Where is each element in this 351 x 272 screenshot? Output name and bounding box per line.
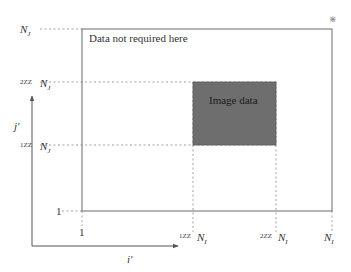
svg-text:NI: NI xyxy=(196,231,207,246)
svg-text:NJ: NJ xyxy=(39,140,51,155)
svg-text:2ZZ: 2ZZ xyxy=(20,78,32,86)
x-tick-labels: 1 1ZZ NI 2ZZ NI NI xyxy=(79,226,334,246)
y-axis-label: j′ xyxy=(12,120,20,132)
svg-text:NJ: NJ xyxy=(39,77,51,92)
x-tick-1: 1 xyxy=(79,226,85,238)
svg-text:NJ: NJ xyxy=(19,23,31,38)
y-tick-2zz-nj: 2ZZ NJ xyxy=(20,77,51,92)
x-tick-2zz-ni: 2ZZ NI xyxy=(260,231,288,246)
y-tick-nj-top: NJ xyxy=(19,23,31,38)
svg-text:2ZZ: 2ZZ xyxy=(260,232,272,240)
y-tick-1: 1 xyxy=(56,205,62,217)
image-data-label: Image data xyxy=(209,94,258,106)
diagram-canvas: Data not required here Image data j′ i′ … xyxy=(0,0,351,272)
svg-text:1ZZ: 1ZZ xyxy=(20,141,32,149)
svg-text:NI: NI xyxy=(323,231,334,246)
x-axis-label: i′ xyxy=(127,253,133,265)
image-data-block xyxy=(193,82,276,145)
outer-region-label: Data not required here xyxy=(89,32,188,44)
svg-text:NI: NI xyxy=(277,231,288,246)
corner-mark-icon: ⋇ xyxy=(329,14,337,24)
y-tick-1zz-nj: 1ZZ NJ xyxy=(20,140,51,155)
x-tick-ni-right: NI xyxy=(323,231,334,246)
y-tick-labels: NJ 2ZZ NJ 1ZZ NJ 1 xyxy=(19,23,62,217)
axes xyxy=(32,96,178,246)
svg-text:1ZZ: 1ZZ xyxy=(179,232,191,240)
x-tick-1zz-ni: 1ZZ NI xyxy=(179,231,207,246)
